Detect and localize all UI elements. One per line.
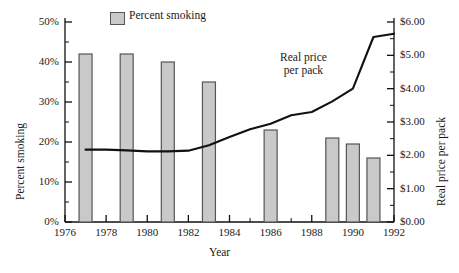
y2-tick-$3.00: $3.00 [400, 115, 425, 127]
bar-1981 [161, 62, 174, 222]
x-tick-1976: 1976 [42, 226, 88, 238]
y2-tick-$5.00: $5.00 [400, 48, 425, 60]
bar-1990 [346, 144, 359, 222]
x-tick-1988: 1988 [289, 226, 335, 238]
bar-1979 [120, 54, 133, 222]
bar-1991 [367, 158, 380, 222]
bar-1986 [264, 130, 277, 222]
y-tick-50%: 50% [19, 15, 59, 27]
x-tick-1982: 1982 [165, 226, 211, 238]
y2-tick-$1.00: $1.00 [400, 182, 425, 194]
y-tick-30%: 30% [19, 95, 59, 107]
x-tick-1984: 1984 [207, 226, 253, 238]
x-tick-1986: 1986 [248, 226, 294, 238]
y2-tick-$4.00: $4.00 [400, 82, 425, 94]
y2-tick-$6.00: $6.00 [400, 15, 425, 27]
y-tick-10%: 10% [19, 175, 59, 187]
x-tick-1980: 1980 [124, 226, 170, 238]
bar-1977 [79, 54, 92, 222]
bar-1983 [202, 82, 215, 222]
y-tick-20%: 20% [19, 135, 59, 147]
x-tick-1990: 1990 [330, 226, 376, 238]
y2-tick-$2.00: $2.00 [400, 148, 425, 160]
bar-1989 [326, 138, 339, 222]
x-tick-1978: 1978 [83, 226, 129, 238]
y-tick-40%: 40% [19, 55, 59, 67]
x-tick-1992: 1992 [371, 226, 417, 238]
chart-figure: Percent smoking Real price per pack Year… [0, 0, 459, 273]
